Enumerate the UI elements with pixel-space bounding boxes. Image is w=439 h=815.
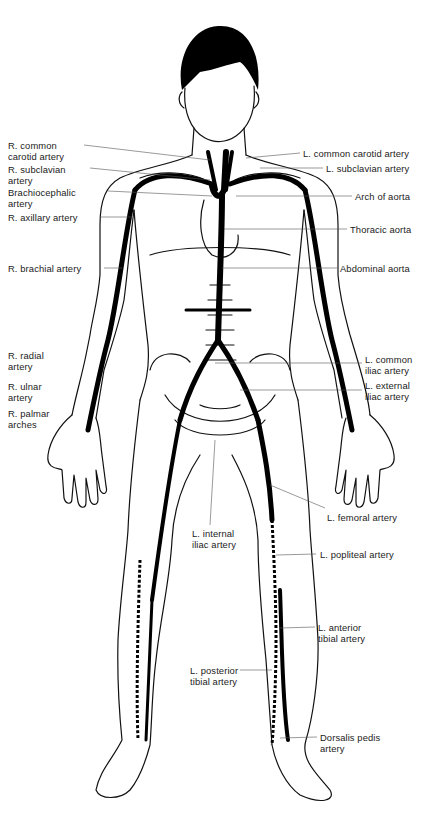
- arterial-system-diagram: R. common carotid artery R. subclavian a…: [0, 0, 439, 815]
- label-abdominal-aorta: Abdominal aorta: [340, 263, 410, 274]
- label-r-radial-artery: R. radial artery: [8, 350, 44, 372]
- pelvis: [150, 354, 290, 435]
- femoral-left: [258, 420, 272, 520]
- right-hand: [48, 415, 107, 507]
- label-r-common-carotid-artery: R. common carotid artery: [8, 140, 64, 162]
- label-l-internal-iliac-artery: L. internal iliac artery: [192, 528, 236, 550]
- label-l-femoral-artery: L. femoral artery: [327, 512, 397, 523]
- label-l-posterior-tibial-artery: L. posterior tibial artery: [190, 665, 238, 687]
- body-illustration: [0, 0, 439, 815]
- label-arch-of-aorta: Arch of aorta: [355, 191, 410, 202]
- label-l-common-carotid-artery: L. common carotid artery: [303, 148, 409, 159]
- label-l-external-iliac-artery: L. external iliac artery: [365, 380, 410, 402]
- tibial-left: [280, 590, 288, 740]
- label-r-palmar-arches: R. palmar arches: [8, 408, 50, 430]
- label-l-popliteal-artery: L. popliteal artery: [320, 549, 394, 560]
- label-r-ulnar-artery: R. ulnar artery: [8, 381, 42, 403]
- iliacs: [180, 340, 258, 420]
- label-l-anterior-tibial-artery: L. anterior tibial artery: [318, 622, 365, 644]
- label-l-common-iliac-artery: L. common iliac artery: [365, 354, 412, 376]
- left-hand: [336, 415, 395, 507]
- right-leg: [96, 400, 200, 798]
- label-r-axillary-artery: R. axillary artery: [8, 212, 78, 223]
- label-l-subclavian-artery: L. subclavian artery: [326, 163, 409, 174]
- label-r-subclavian-artery: R. subclavian artery: [8, 164, 66, 186]
- hair: [181, 26, 259, 90]
- label-dorsalis-pedis-artery: Dorsalis pedis artery: [320, 732, 380, 754]
- label-r-brachial-artery: R. brachial artery: [8, 263, 81, 274]
- label-thoracic-aorta: Thoracic aorta: [350, 224, 411, 235]
- subclavians: [135, 176, 305, 190]
- label-brachiocephalic-artery: Brachiocephalic artery: [8, 187, 76, 209]
